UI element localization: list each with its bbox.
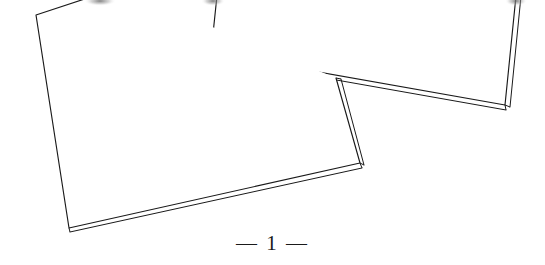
sheets-illustration <box>0 0 545 265</box>
scanned-page: — 1 — <box>0 0 545 265</box>
folio-page-number: — 1 — <box>0 233 545 254</box>
